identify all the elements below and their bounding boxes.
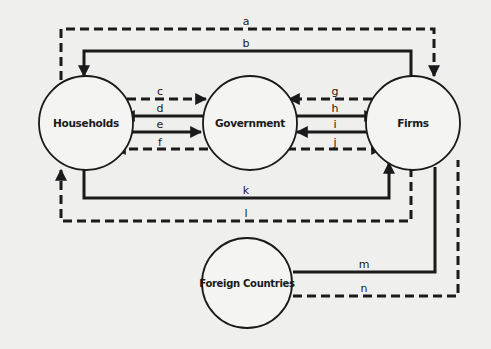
flow-d-label: d [157, 102, 164, 115]
flow-d: d [124, 102, 203, 116]
flow-n-label: n [361, 282, 368, 295]
flow-j-label: j [332, 136, 336, 149]
flow-n: n [293, 160, 458, 296]
flow-c: c [113, 85, 206, 99]
flow-i: i [297, 118, 375, 132]
flow-k-label: k [243, 184, 250, 197]
circular-flow-diagram: a b c d e f g h i j k [0, 0, 491, 349]
flow-h: h [295, 102, 375, 116]
flow-e-label: e [157, 118, 164, 131]
node-foreign-countries: Foreign Countries [199, 238, 295, 328]
flow-f-label: f [158, 136, 163, 149]
flow-h-label: h [332, 102, 339, 115]
flow-l-label: l [244, 207, 247, 220]
flow-g-label: g [332, 85, 339, 98]
flow-i-label: i [333, 118, 336, 131]
node-government-label: Government [215, 117, 285, 129]
node-government: Government [203, 76, 297, 170]
node-households-label: Households [53, 117, 119, 129]
flow-g: g [289, 85, 386, 99]
node-firms: Firms [366, 76, 460, 170]
flow-l: l [61, 168, 411, 221]
flow-m-label: m [359, 258, 370, 271]
flow-a-label: a [243, 15, 250, 28]
flow-b: b [84, 37, 411, 79]
node-foreign-countries-label: Foreign Countries [199, 278, 295, 289]
node-households: Households [39, 76, 133, 170]
flow-b-label: b [243, 37, 250, 50]
node-firms-label: Firms [397, 117, 429, 129]
flow-c-label: c [157, 85, 163, 98]
